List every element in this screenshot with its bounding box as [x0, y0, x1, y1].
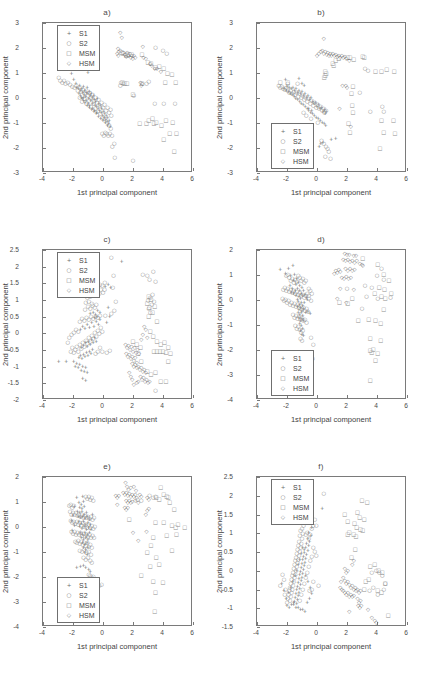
data-point: +: [57, 359, 61, 364]
data-point: ◇: [133, 55, 137, 60]
data-point: ○: [151, 269, 156, 274]
legend-item-msm: □MSM: [275, 502, 309, 512]
data-point: ◇: [131, 531, 135, 536]
data-point: □: [356, 319, 361, 324]
data-point: ○: [109, 256, 114, 261]
data-point: ○: [92, 524, 97, 529]
data-point: □: [368, 336, 373, 341]
data-point: ○: [304, 320, 309, 325]
legend-label: S1: [77, 257, 88, 264]
x-axis-label: 1st principal component: [42, 415, 192, 424]
data-point: ◇: [139, 337, 143, 342]
legend-item-msm: □MSM: [61, 600, 95, 610]
data-point: ◇: [347, 58, 351, 63]
data-point: ◇: [359, 589, 363, 594]
x-tick-mark: [407, 622, 408, 625]
data-point: □: [155, 319, 160, 324]
data-point: ○: [100, 132, 105, 137]
x-tick-label: 0: [100, 402, 104, 409]
data-point: ◇: [137, 351, 141, 356]
y-tick-label: 0: [207, 296, 233, 303]
data-point: ◇: [345, 85, 349, 90]
data-point: +: [320, 506, 324, 511]
panel-title: e): [0, 462, 214, 471]
data-point: ○: [152, 101, 157, 106]
data-point: □: [182, 526, 187, 531]
y-tick-label: -4: [0, 623, 19, 630]
data-point: ○: [309, 117, 314, 122]
data-point: □: [173, 80, 178, 85]
x-tick-label: -2: [69, 629, 75, 636]
data-point: ○: [315, 120, 320, 125]
data-point: □: [157, 497, 162, 502]
data-point: ○: [98, 313, 103, 318]
legend-label: HSM: [291, 514, 309, 521]
y-tick-label: -1.5: [0, 379, 19, 386]
y-tick-label: -2: [207, 144, 233, 151]
legend-label: S2: [77, 267, 88, 274]
data-point: □: [168, 351, 173, 356]
data-point: □: [151, 579, 156, 584]
data-point: □: [360, 499, 365, 504]
data-point: □: [157, 562, 162, 567]
data-point: ◇: [116, 53, 120, 58]
x-tick-label: -4: [253, 175, 259, 182]
legend-label: S1: [77, 30, 88, 37]
pca-figure: a)2nd principal component1st principal c…: [0, 0, 428, 681]
legend-item-s1: +S1: [275, 126, 309, 136]
x-tick-label: -2: [69, 402, 75, 409]
data-point: □: [348, 130, 353, 135]
data-point: +: [105, 321, 109, 326]
legend-label: MSM: [291, 375, 309, 382]
y-tick-label: -2: [0, 396, 19, 403]
data-point: □: [150, 117, 155, 122]
legend-label: S1: [291, 128, 302, 135]
y-tick-mark: [257, 400, 260, 401]
legend-label: S1: [291, 484, 302, 491]
data-point: □: [323, 73, 328, 78]
data-point: □: [362, 55, 367, 60]
x-tick-label: 6: [190, 402, 194, 409]
data-point: +: [120, 259, 124, 264]
x-tick-label: -2: [283, 629, 289, 636]
data-point: □: [350, 103, 355, 108]
data-point: ○: [89, 561, 94, 566]
data-point: □: [379, 591, 384, 596]
data-point: ◇: [117, 493, 121, 498]
data-point: ○: [309, 299, 314, 304]
y-tick-label: 1: [0, 69, 19, 76]
data-point: □: [345, 519, 350, 524]
data-point: ○: [144, 82, 149, 87]
data-point: □: [125, 82, 130, 87]
y-tick-label: 1.5: [207, 510, 233, 517]
y-tick-label: 0: [0, 94, 19, 101]
panel-e: e)2nd principal component1st principal c…: [0, 454, 214, 681]
data-point: ◇: [141, 44, 145, 49]
legend-marker-icon: +: [61, 30, 77, 36]
legend-marker-icon: ◇: [61, 287, 77, 293]
x-tick-label: 6: [404, 175, 408, 182]
data-point: ○: [363, 284, 368, 289]
data-point: ◇: [349, 124, 353, 129]
data-point: ○: [131, 158, 136, 163]
plot-area: ++++++++++++++++++++++++++++++++++++++++…: [42, 476, 192, 626]
data-point: +: [307, 596, 311, 601]
data-point: □: [381, 130, 386, 135]
data-point: □: [166, 496, 171, 501]
data-point: ○: [314, 553, 319, 558]
y-tick-label: 0.5: [207, 548, 233, 555]
data-point: ○: [109, 127, 114, 132]
data-point: ○: [109, 113, 114, 118]
plot-area: ++++++++++++++++++++++++++++++++++++++++…: [256, 22, 406, 172]
data-point: ○: [381, 277, 386, 282]
panel-a: a)2nd principal component1st principal c…: [0, 0, 214, 227]
data-point: ○: [297, 598, 302, 603]
legend: +S1○S2□MSM◇HSM: [271, 350, 314, 396]
legend-item-hsm: ◇HSM: [61, 610, 95, 620]
legend-item-hsm: ◇HSM: [275, 383, 309, 393]
data-point: ○: [110, 133, 115, 138]
data-point: ◇: [346, 568, 350, 573]
legend-item-s1: +S1: [275, 353, 309, 363]
x-tick-label: -4: [253, 402, 259, 409]
y-tick-label: 2: [207, 491, 233, 498]
